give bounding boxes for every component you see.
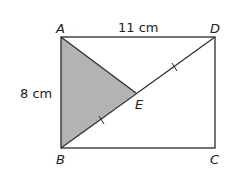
vertex-label-c: C bbox=[210, 152, 220, 167]
vertex-label-a: A bbox=[55, 21, 65, 36]
shaded-triangle-abe bbox=[61, 37, 136, 148]
vertex-label-d: D bbox=[210, 21, 220, 36]
vertex-label-e: E bbox=[135, 97, 144, 112]
side-length-ad: 11 cm bbox=[118, 20, 159, 35]
vertex-label-b: B bbox=[56, 152, 65, 167]
geometry-diagram: A D B C E 11 cm 8 cm bbox=[0, 0, 235, 172]
side-length-ab: 8 cm bbox=[20, 86, 52, 101]
